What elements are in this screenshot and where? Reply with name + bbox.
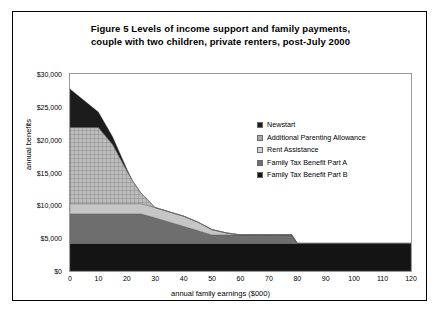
y-tick-label: $30,000 (37, 71, 62, 78)
legend-item-label: Newstart (267, 121, 295, 129)
x-tick-label: 40 (180, 275, 188, 282)
chart-title-line-1: Figure 5 Levels of income support and fa… (13, 22, 428, 35)
x-axis-title: annual family earnings ($000) (13, 289, 428, 298)
legend-item-label: Rent Assistance (267, 146, 319, 154)
y-tick-label: $10,000 (37, 202, 62, 209)
legend-swatch-icon (257, 135, 263, 141)
legend-item: Rent Assistance (257, 144, 407, 156)
legend-item-label: Family Tax Benefit Part B (267, 171, 348, 179)
x-tick-label: 20 (123, 275, 131, 282)
legend-swatch-icon (257, 147, 263, 153)
legend-item: Family Tax Benefit Part A (257, 157, 407, 169)
chart-legend: NewstartAdditional Parenting AllowanceRe… (257, 119, 407, 182)
x-tick-label: 80 (293, 275, 301, 282)
legend-swatch-icon (257, 160, 263, 166)
y-tick-label: $15,000 (37, 169, 62, 176)
chart-title: Figure 5 Levels of income support and fa… (13, 22, 428, 48)
figure-frame: Figure 5 Levels of income support and fa… (12, 11, 427, 301)
x-tick-label: 50 (208, 275, 216, 282)
y-tick-label: $5,000 (41, 235, 62, 242)
y-axis-tick-labels: $0$5,000$10,000$15,000$20,000$25,000$30,… (13, 67, 66, 279)
legend-item-label: Additional Parenting Allowance (267, 134, 366, 142)
y-tick-label: $20,000 (37, 136, 62, 143)
x-tick-label: 10 (95, 275, 103, 282)
x-tick-label: 60 (237, 275, 245, 282)
legend-swatch-icon (257, 172, 263, 178)
x-tick-label: 70 (265, 275, 273, 282)
x-axis-tick-labels: 0102030405060708090100110120 (69, 275, 412, 287)
y-tick-label: $0 (54, 268, 62, 275)
area-series (70, 243, 411, 271)
x-tick-label: 30 (151, 275, 159, 282)
legend-item-label: Family Tax Benefit Part A (267, 159, 347, 167)
x-tick-label: 120 (405, 275, 417, 282)
area-series (70, 214, 411, 244)
legend-item: Family Tax Benefit Part B (257, 169, 407, 181)
chart-title-line-2: couple with two children, private renter… (13, 35, 428, 48)
legend-swatch-icon (257, 122, 263, 128)
x-tick-label: 110 (377, 275, 388, 282)
x-tick-label: 90 (322, 275, 330, 282)
y-axis-title: annual benefits (24, 100, 33, 190)
legend-item: Newstart (257, 119, 407, 131)
x-tick-label: 0 (68, 275, 72, 282)
legend-item: Additional Parenting Allowance (257, 132, 407, 144)
x-tick-label: 100 (348, 275, 360, 282)
y-tick-label: $25,000 (37, 103, 62, 110)
